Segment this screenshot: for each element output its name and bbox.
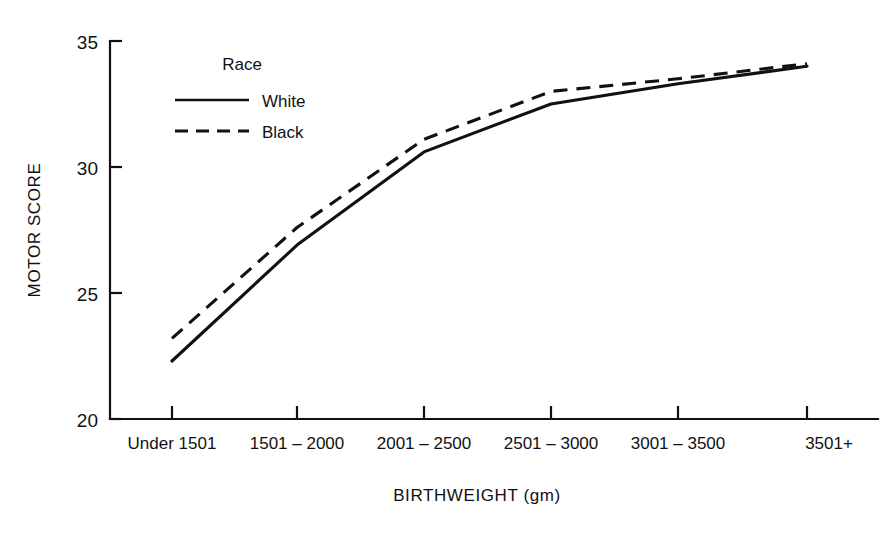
x-tick-label-4: 3001 – 3500 xyxy=(631,434,726,453)
legend-title: Race xyxy=(222,55,262,74)
y-axis-title: MOTOR SCORE xyxy=(25,163,44,298)
y-tick-label-25: 25 xyxy=(77,284,98,305)
x-tick-label-0: Under 1501 xyxy=(128,434,217,453)
chart-figure: MOTOR SCORES BY BIRTHWEIGHT 35 30 25 20 … xyxy=(0,0,892,539)
y-tick-label-20: 20 xyxy=(77,410,98,431)
x-tick-label-5: 3501+ xyxy=(805,434,853,453)
y-tick-label-35: 35 xyxy=(77,32,98,53)
x-tick-label-3: 2501 – 3000 xyxy=(504,434,599,453)
legend: Race White Black xyxy=(175,55,305,142)
line-chart-plot: 35 30 25 20 MOTOR SCORE Under 1501 1501 … xyxy=(0,0,892,539)
x-axis-title: BIRTHWEIGHT (gm) xyxy=(393,486,561,505)
legend-label-white: White xyxy=(262,92,305,111)
x-tick-label-1: 1501 – 2000 xyxy=(250,434,345,453)
x-tick-label-2: 2001 – 2500 xyxy=(377,434,472,453)
legend-label-black: Black xyxy=(262,123,304,142)
y-tick-label-30: 30 xyxy=(77,158,98,179)
axis-group xyxy=(110,41,878,419)
